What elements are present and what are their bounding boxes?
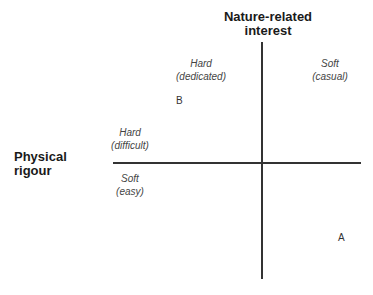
quadrant-label-line1: Hard <box>105 126 155 139</box>
quadrant-label-line2: (dedicated) <box>166 70 236 83</box>
vertical-axis-title: Nature-related interest <box>218 10 318 38</box>
quadrant-label-soft-easy: Soft (easy) <box>105 172 155 198</box>
quadrant-label-line1: Hard <box>166 57 236 70</box>
point-b: B <box>176 95 183 106</box>
quadrant-label-line2: (easy) <box>105 185 155 198</box>
horizontal-axis-title-line2: rigour <box>14 164 67 178</box>
quadrant-label-soft-casual: Soft (casual) <box>300 57 360 83</box>
quadrant-label-line1: Soft <box>300 57 360 70</box>
quadrant-label-hard-difficult: Hard (difficult) <box>105 126 155 152</box>
vertical-axis-title-line1: Nature-related <box>218 10 318 24</box>
quadrant-label-line1: Soft <box>105 172 155 185</box>
vertical-axis-title-line2: interest <box>218 24 318 38</box>
quadrant-label-line2: (casual) <box>300 70 360 83</box>
point-a: A <box>338 232 345 243</box>
horizontal-axis-line <box>113 162 361 164</box>
vertical-axis-line <box>261 42 263 279</box>
horizontal-axis-title: Physical rigour <box>14 150 67 178</box>
quadrant-label-hard-dedicated: Hard (dedicated) <box>166 57 236 83</box>
horizontal-axis-title-line1: Physical <box>14 150 67 164</box>
quadrant-label-line2: (difficult) <box>105 139 155 152</box>
